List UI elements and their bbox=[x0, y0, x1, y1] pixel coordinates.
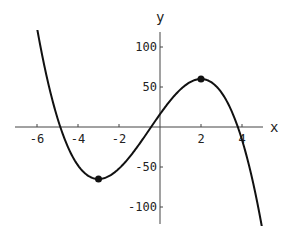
local-minimum-point bbox=[95, 176, 102, 183]
chart-svg: -6-4-224 -100-5050100 x y bbox=[0, 0, 290, 239]
x-tick-label: -6 bbox=[30, 132, 44, 146]
y-tick-label: 50 bbox=[143, 80, 157, 94]
y-axis-label: y bbox=[156, 9, 164, 25]
x-tick-label: -4 bbox=[71, 132, 85, 146]
y-tick-label: 100 bbox=[135, 40, 157, 54]
local-maximum-point bbox=[198, 76, 205, 83]
y-tick-label: -50 bbox=[135, 160, 157, 174]
chart: -6-4-224 -100-5050100 x y bbox=[0, 0, 290, 239]
x-tick-label: 2 bbox=[197, 132, 204, 146]
x-tick-label: -2 bbox=[112, 132, 126, 146]
y-tick-label: -100 bbox=[128, 200, 157, 214]
x-axis-label: x bbox=[270, 119, 278, 135]
